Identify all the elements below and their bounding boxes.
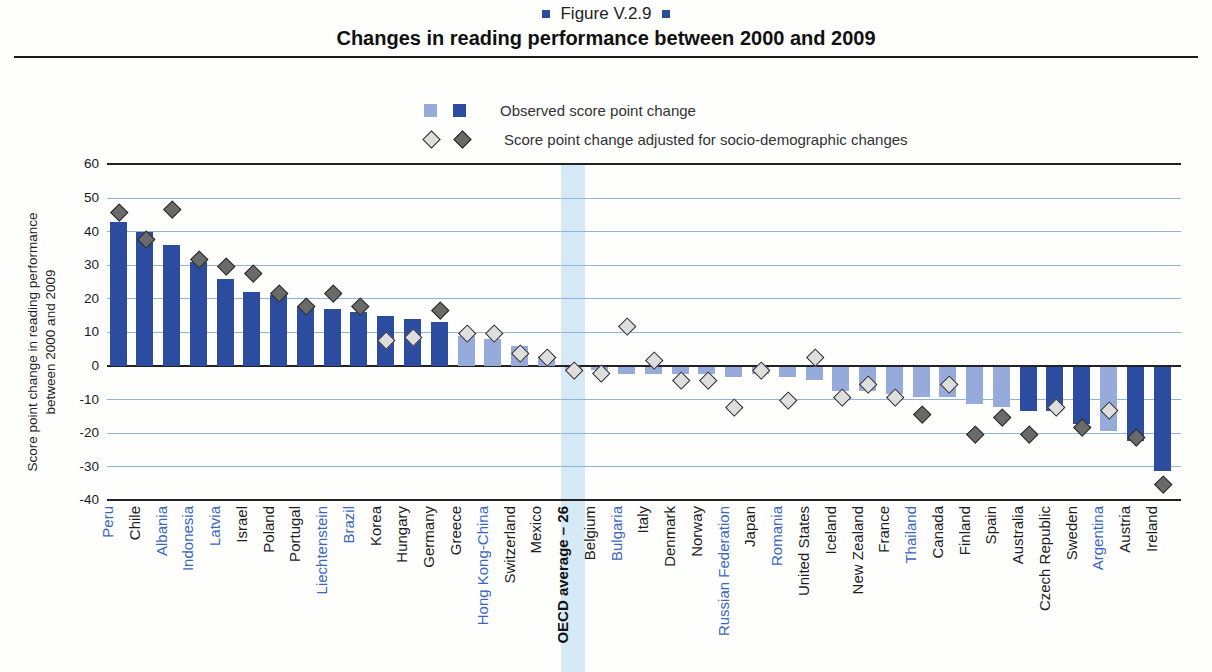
- title-square-right-icon: [662, 10, 670, 18]
- x-label-Israel: Israel: [232, 506, 252, 666]
- x-label-New Zealand: New Zealand: [848, 506, 868, 666]
- diamond-United States: [806, 348, 824, 366]
- gridline--40: [107, 499, 1181, 501]
- x-label-Russian Federation: Russian Federation: [714, 506, 734, 666]
- x-label-Latvia: Latvia: [205, 506, 225, 666]
- legend-dark-diamond-icon: [453, 130, 471, 148]
- y-tick-label-50: 50: [57, 190, 99, 206]
- x-label-Chile: Chile: [125, 506, 145, 666]
- x-label-Liechtenstein: Liechtenstein: [312, 506, 332, 666]
- gridline--30: [107, 466, 1181, 467]
- bar-Poland: [270, 295, 287, 366]
- figure-title: Changes in reading performance between 2…: [0, 27, 1212, 50]
- figure-page: Figure V.2.9 Changes in reading performa…: [0, 0, 1212, 672]
- diamond-Albania: [164, 200, 182, 218]
- legend-row-adjusted: Score point change adjusted for socio-de…: [424, 125, 908, 154]
- bar-Thailand: [913, 367, 930, 397]
- x-label-Thailand: Thailand: [901, 506, 921, 666]
- diamond-Peru: [110, 204, 128, 222]
- bar-Sweden: [1073, 367, 1090, 424]
- legend-light-bar-swatch: [424, 104, 437, 117]
- x-label-Spain: Spain: [981, 506, 1001, 666]
- y-tick-label-10: 10: [57, 324, 99, 340]
- x-label-Poland: Poland: [259, 506, 279, 666]
- bar-Albania: [163, 245, 180, 366]
- x-label-Japan: Japan: [740, 506, 760, 666]
- x-label-OECD average – 26: OECD average – 26: [553, 506, 573, 666]
- y-tick-label--40: -40: [57, 492, 99, 508]
- x-label-Argentina: Argentina: [1088, 506, 1108, 666]
- title-square-left-icon: [542, 10, 550, 18]
- bar-Hong Kong-China: [484, 339, 501, 366]
- x-label-Austria: Austria: [1115, 506, 1135, 666]
- bar-Spain: [993, 367, 1010, 407]
- diamond-Iceland: [833, 388, 851, 406]
- x-label-Canada: Canada: [928, 506, 948, 666]
- x-label-Mexico: Mexico: [526, 506, 546, 666]
- x-label-Greece: Greece: [446, 506, 466, 666]
- y-tick-label-60: 60: [57, 156, 99, 172]
- x-label-Czech Republic: Czech Republic: [1035, 506, 1055, 666]
- x-label-Finland: Finland: [955, 506, 975, 666]
- bar-Liechtenstein: [324, 309, 341, 366]
- x-label-Ireland: Ireland: [1142, 506, 1162, 666]
- diamond-Ireland: [1154, 476, 1172, 494]
- legend-observed-label: Observed score point change: [500, 102, 696, 119]
- x-label-Iceland: Iceland: [821, 506, 841, 666]
- x-label-Portugal: Portugal: [285, 506, 305, 666]
- x-label-Norway: Norway: [687, 506, 707, 666]
- x-label-Korea: Korea: [366, 506, 386, 666]
- bar-Germany: [431, 322, 448, 366]
- y-tick-label-0: 0: [57, 358, 99, 374]
- gridline-10: [107, 332, 1181, 333]
- diamond-Germany: [431, 301, 449, 319]
- x-label-Germany: Germany: [419, 506, 439, 666]
- bar-Brazil: [350, 312, 367, 366]
- y-tick-label--30: -30: [57, 459, 99, 475]
- bar-Australia: [1020, 367, 1037, 411]
- gridline-20: [107, 298, 1181, 299]
- x-label-Italy: Italy: [633, 506, 653, 666]
- y-tick-label-40: 40: [57, 224, 99, 240]
- gridline-30: [107, 265, 1181, 266]
- x-label-Romania: Romania: [767, 506, 787, 666]
- figure-tag-row: Figure V.2.9: [0, 4, 1212, 24]
- x-label-Brazil: Brazil: [339, 506, 359, 666]
- figure-tag: Figure V.2.9: [560, 4, 651, 24]
- diamond-Israel: [244, 264, 262, 282]
- y-tick-label-20: 20: [57, 291, 99, 307]
- y-tick-label--20: -20: [57, 425, 99, 441]
- x-label-Indonesia: Indonesia: [178, 506, 198, 666]
- x-label-Sweden: Sweden: [1062, 506, 1082, 666]
- x-label-Switzerland: Switzerland: [500, 506, 520, 666]
- bar-Israel: [243, 292, 260, 366]
- x-label-France: France: [874, 506, 894, 666]
- legend-row-observed: Observed score point change: [424, 96, 908, 125]
- diamond-Finland: [967, 425, 985, 443]
- diamond-Spain: [994, 409, 1012, 427]
- header-rule: [14, 56, 1198, 58]
- bar-Romania: [779, 367, 796, 377]
- x-label-Peru: Peru: [98, 506, 118, 666]
- bar-Iceland: [832, 367, 849, 391]
- x-label-Denmark: Denmark: [660, 506, 680, 666]
- diamond-Norway: [699, 372, 717, 390]
- gridline-50: [107, 198, 1181, 199]
- diamond-Thailand: [913, 405, 931, 423]
- legend-dark-bar-swatch: [453, 104, 466, 117]
- bar-United States: [806, 367, 823, 380]
- gridline-40: [107, 231, 1181, 232]
- diamond-Russian Federation: [726, 398, 744, 416]
- gridline-60: [107, 163, 1181, 165]
- bar-Latvia: [217, 279, 234, 366]
- x-label-Albania: Albania: [152, 506, 172, 666]
- diamond-Latvia: [217, 257, 235, 275]
- bar-Ireland: [1154, 367, 1171, 471]
- diamond-Australia: [1020, 425, 1038, 443]
- x-label-United States: United States: [794, 506, 814, 666]
- bar-Peru: [110, 222, 127, 366]
- bar-Argentina: [1100, 367, 1117, 431]
- bar-Chile: [136, 232, 153, 366]
- x-label-Australia: Australia: [1008, 506, 1028, 666]
- x-label-Hungary: Hungary: [392, 506, 412, 666]
